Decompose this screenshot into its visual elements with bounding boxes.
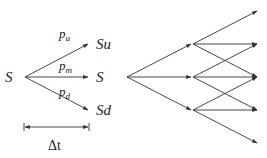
down-node-label: Sd	[96, 102, 112, 118]
left-single-step-tree: S pu pm pd Su S Sd Δt	[5, 26, 112, 153]
tree-edge-step2-node-1-to-2	[193, 11, 257, 44]
trinomial-tree-diagram: S pu pm pd Su S Sd Δt	[0, 0, 267, 158]
prob-down-label: pd	[58, 84, 71, 101]
prob-down-sub: d	[66, 91, 71, 101]
up-node-label: Su	[96, 36, 111, 52]
root-node-label: S	[5, 69, 13, 85]
up-branch-arrow	[25, 44, 88, 77]
right-two-step-tree	[127, 11, 257, 143]
tree-edge-step2-node1-to2	[193, 110, 257, 143]
mid-node-label: S	[96, 69, 104, 85]
prob-mid-sub: m	[66, 65, 73, 75]
prob-up-sub: u	[66, 33, 71, 43]
prob-up-label: pu	[58, 26, 71, 43]
tree-edge-step1-node0-to-1	[127, 44, 191, 77]
down-branch-arrow	[25, 77, 88, 110]
tree-edge-step1-node0-to1	[127, 77, 191, 110]
time-interval-label: Δt	[48, 138, 61, 153]
prob-mid-label: pm	[58, 58, 73, 75]
